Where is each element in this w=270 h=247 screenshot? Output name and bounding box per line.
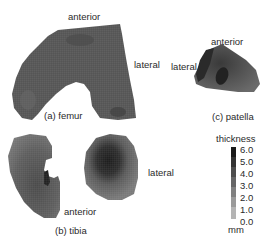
femur-anterior-label: anterior (68, 12, 100, 22)
patella-map (194, 44, 260, 92)
femur-lateral-label: lateral (134, 60, 160, 70)
tibia-medial-map (8, 134, 60, 218)
colorbar-tick: 5.0 (240, 157, 253, 167)
colorbar-title: thickness (216, 134, 256, 144)
tibia-lateral-label: lateral (148, 168, 174, 178)
patella-lateral-label: lateral (171, 62, 197, 72)
tibia-lateral-map (84, 134, 138, 200)
patella-caption: (c) patella (212, 112, 254, 122)
colorbar-unit: mm (228, 225, 244, 235)
colorbar-tick: 1.0 (240, 205, 253, 215)
tibia-caption: (b) tibia (55, 226, 87, 236)
colorbar-tick: 3.0 (240, 181, 253, 191)
patella-anterior-label: anterior (211, 37, 243, 47)
femur-caption: (a) femur (44, 111, 83, 121)
colorbar-tick: 2.0 (240, 193, 253, 203)
colorbar (231, 147, 236, 219)
femur-map (12, 24, 136, 120)
colorbar-tick: 4.0 (240, 169, 253, 179)
colorbar-tick: 6.0 (240, 145, 253, 155)
tibia-anterior-label: anterior (64, 207, 96, 217)
